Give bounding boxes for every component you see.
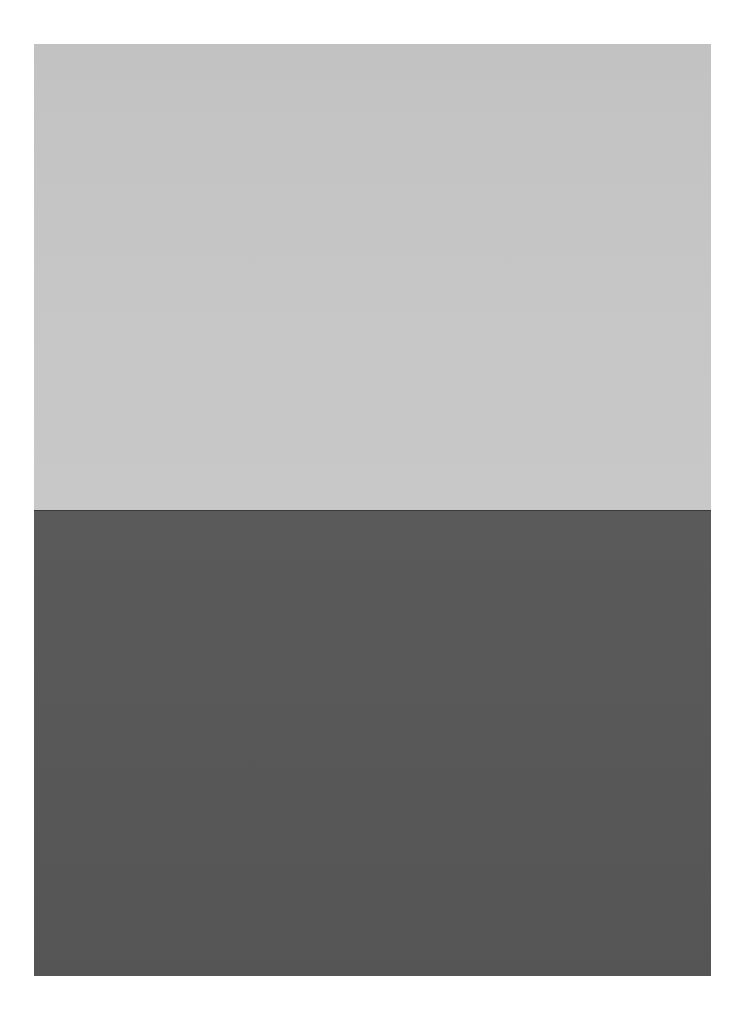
sky-region xyxy=(34,44,711,510)
sea-region xyxy=(34,511,711,976)
seascape-photo xyxy=(34,44,711,976)
